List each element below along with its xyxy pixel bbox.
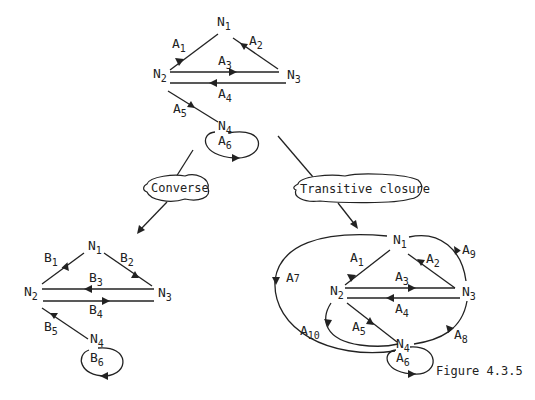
label-b4: B4 — [89, 302, 103, 320]
arrowhead-icon — [324, 319, 332, 327]
label-a5: A5 — [352, 319, 366, 337]
arrowhead-icon — [408, 370, 416, 378]
label-a8: A8 — [454, 327, 468, 345]
label-a3: A3 — [395, 269, 409, 287]
node-n3: N3 — [158, 285, 172, 303]
node-n2: N2 — [330, 283, 344, 301]
label-a7: A7 — [286, 270, 300, 285]
connector-line — [278, 136, 313, 177]
connector-line — [176, 150, 193, 177]
arrowhead-icon — [408, 284, 416, 292]
label-b5: B5 — [44, 319, 58, 337]
label-b1: B1 — [44, 250, 58, 268]
node-n2: N2 — [24, 284, 38, 302]
label-b6: B6 — [90, 350, 104, 368]
label-a10: A10 — [300, 323, 320, 341]
arrowhead-icon — [102, 297, 110, 305]
arrowhead-icon — [209, 79, 217, 87]
node-n1: N1 — [88, 238, 102, 256]
arrowhead-icon — [61, 262, 72, 273]
node-n4: N4 — [90, 331, 104, 349]
converse-arrow — [140, 202, 167, 230]
arrowhead-icon — [446, 325, 454, 333]
arrowhead-icon — [187, 101, 195, 108]
label-a9: A9 — [462, 242, 476, 260]
node-n2: N2 — [153, 66, 167, 84]
figure-canvas: N1 N2 N3 N4 A1 A2 A3 A4 A5 A6 Converse T… — [0, 0, 535, 400]
label-a2: A2 — [249, 33, 263, 51]
arrowhead-icon — [272, 277, 280, 285]
label-a4: A4 — [218, 86, 232, 104]
arrowhead-icon — [232, 154, 240, 162]
transitive-closure-bubble: Transitive closure — [294, 174, 430, 203]
closure-graph: N1 N2 N3 N4 A1 A2 A3 A4 A5 A6 A7 A8 A9 A… — [272, 232, 476, 378]
arrowhead-icon — [350, 220, 358, 229]
label-a3: A3 — [218, 53, 232, 71]
converse-label: Converse — [151, 181, 209, 195]
label-a1: A1 — [350, 250, 364, 268]
node-n3: N3 — [462, 284, 476, 302]
label-b3: B3 — [89, 270, 103, 288]
converse-graph: N1 N2 N3 N4 B1 B2 B3 B4 B5 B6 — [24, 238, 172, 380]
node-n1: N1 — [217, 14, 231, 32]
label-a4: A4 — [395, 301, 409, 319]
transitive-closure-label: Transitive closure — [300, 182, 430, 196]
original-graph: N1 N2 N3 N4 A1 A2 A3 A4 A5 A6 — [153, 14, 301, 162]
arrowhead-icon — [240, 43, 248, 50]
figure-caption: Figure 4.3.5 — [436, 364, 523, 378]
edge-a6 — [205, 132, 258, 158]
arrowhead-icon — [100, 372, 108, 380]
node-n3: N3 — [287, 67, 301, 85]
arrowhead-icon — [386, 294, 394, 302]
node-n1: N1 — [393, 232, 407, 250]
arrowhead-icon — [84, 285, 92, 293]
label-a5: A5 — [173, 101, 187, 119]
label-a2: A2 — [426, 251, 440, 269]
converse-bubble: Converse — [144, 175, 209, 201]
label-a1: A1 — [172, 36, 186, 54]
edge-a10 — [326, 303, 398, 346]
